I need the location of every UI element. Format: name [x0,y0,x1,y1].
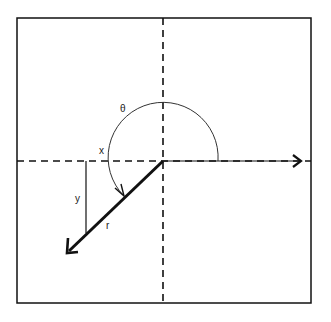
y-label: y [75,193,80,204]
x-label: x [99,145,104,156]
r-vector [69,161,163,251]
r-label: r [106,220,110,231]
theta-label: θ [120,103,126,114]
polar-diagram: θ x y r [0,0,331,322]
